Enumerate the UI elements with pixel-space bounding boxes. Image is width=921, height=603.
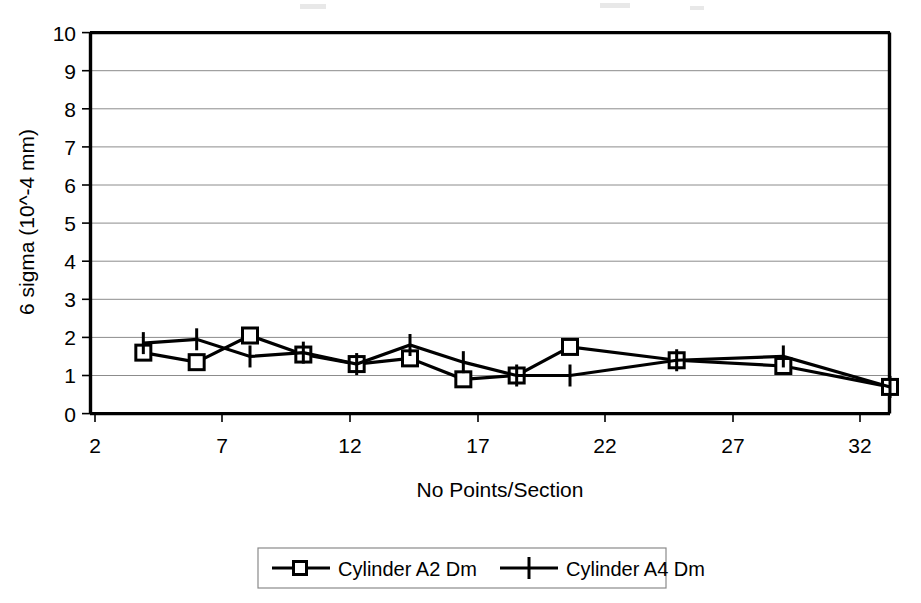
- x-tick-label: 32: [848, 434, 871, 457]
- y-tick-label: 9: [64, 60, 76, 83]
- data-point-square-marker: [563, 339, 578, 354]
- line-chart: 10 9 8 7 6 5 4 3 2 1 0 2 7 12 17 22 27 3…: [0, 0, 921, 603]
- legend-label-a2: Cylinder A2 Dm: [338, 558, 477, 580]
- scan-artifact: [600, 3, 630, 8]
- y-tick-label: 4: [64, 250, 76, 273]
- y-tick-label: 6: [64, 174, 76, 197]
- y-tick-label: 7: [64, 136, 76, 159]
- y-tick-label: 0: [64, 403, 76, 426]
- scan-artifact: [300, 4, 326, 9]
- x-tick-label: 7: [216, 434, 228, 457]
- x-tick-label: 27: [721, 434, 744, 457]
- y-tick-label: 1: [64, 364, 76, 387]
- x-tick-label: 12: [338, 434, 361, 457]
- scan-artifact: [690, 6, 704, 10]
- y-tick-label: 10: [53, 22, 76, 45]
- y-axis-title: 6 sigma (10^-4 mm): [15, 129, 38, 315]
- square-marker-icon: [294, 562, 307, 575]
- data-point-square-marker: [189, 355, 204, 370]
- x-tick-label: 2: [89, 434, 101, 457]
- data-point-square-marker: [243, 328, 258, 343]
- chart-background: [0, 0, 921, 603]
- y-tick-label: 8: [64, 98, 76, 121]
- data-point-square-marker: [456, 372, 471, 387]
- chart-legend: Cylinder A2 Dm Cylinder A4 Dm: [258, 548, 705, 588]
- x-axis-title: No Points/Section: [417, 478, 584, 501]
- x-tick-label: 22: [593, 434, 616, 457]
- legend-label-a4: Cylinder A4 Dm: [566, 558, 705, 580]
- x-tick-label: 17: [466, 434, 489, 457]
- chart-container: 10 9 8 7 6 5 4 3 2 1 0 2 7 12 17 22 27 3…: [0, 0, 921, 603]
- y-tick-label: 5: [64, 212, 76, 235]
- y-tick-label: 2: [64, 326, 76, 349]
- y-tick-label: 3: [64, 288, 76, 311]
